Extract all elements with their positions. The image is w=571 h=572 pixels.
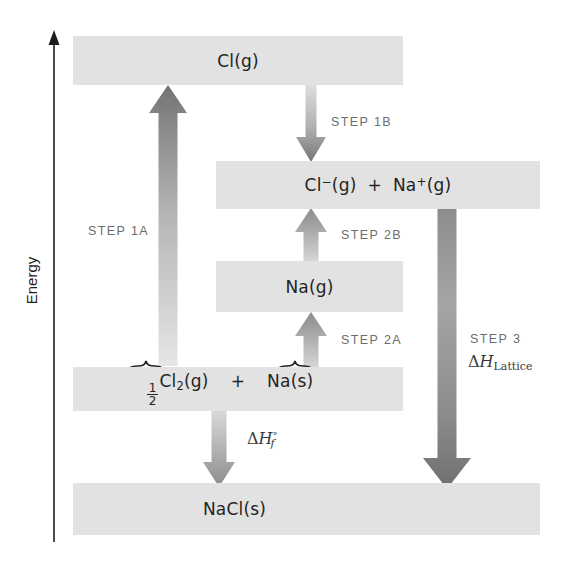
ion-cl-state: (g) — [332, 175, 357, 195]
ions-plus-sign: + — [368, 175, 382, 195]
level-bar-reactants: 1 2 Cl2(g)+Na(s) — [73, 367, 403, 411]
delta-symbol-formation: Δ — [247, 429, 259, 448]
step-2b-arrow — [295, 208, 327, 261]
born-haber-cycle-diagram: Energy Cl(g) Cl−(g)+Na+(g) Na(g) 1 2 Cl2… — [0, 0, 571, 572]
h-symbol-lattice: H — [480, 352, 494, 371]
level-bar-cl-g: Cl(g) — [73, 36, 403, 85]
energy-axis-label: Energy — [23, 246, 40, 316]
energy-axis — [49, 30, 60, 542]
ion-na-symbol: Na — [393, 175, 417, 195]
step-2a-arrow — [295, 312, 327, 367]
level-label-ions-g: Cl−(g)+Na+(g) — [305, 175, 452, 195]
chlorine-state: (g) — [184, 371, 209, 391]
ion-cl-charge: − — [322, 175, 332, 189]
chlorine-symbol: Cl — [159, 371, 176, 391]
level-label-reactants: 1 2 Cl2(g)+Na(s) — [147, 371, 314, 407]
step-3-label: STEP 3 — [470, 332, 521, 346]
level-bar-ions-g: Cl−(g)+Na+(g) — [216, 161, 540, 209]
level-label-cl-g: Cl(g) — [217, 51, 259, 71]
step-1b-arrow — [296, 85, 326, 162]
level-bar-nacl-s: NaCl(s) — [73, 483, 540, 535]
level-bar-na-g: Na(g) — [216, 261, 403, 312]
reactants-plus-sign: + — [231, 371, 245, 391]
enthalpy-formation-arrow — [203, 410, 235, 487]
step-2b-label: STEP 2B — [341, 228, 402, 242]
level-label-nacl-s: NaCl(s) — [203, 499, 266, 519]
ion-cl-symbol: Cl — [305, 175, 322, 195]
step-1a-arrow — [149, 85, 187, 366]
coefficient-one-half: 1 2 — [147, 382, 159, 407]
lattice-subscript: Lattice — [494, 360, 533, 373]
ion-na-charge: + — [417, 175, 427, 189]
step-2a-label: STEP 2A — [341, 333, 402, 347]
ion-na-state: (g) — [427, 175, 452, 195]
step-3-arrow — [423, 208, 471, 489]
chlorine-subscript: 2 — [176, 379, 184, 393]
step-1a-label: STEP 1A — [88, 224, 149, 238]
enthalpy-formation-label: ΔH°f — [247, 429, 275, 450]
enthalpy-lattice-label: ΔHLattice — [468, 352, 532, 373]
formation-subscript: f — [271, 437, 275, 450]
sodium-solid: Na(s) — [267, 371, 313, 391]
delta-symbol-lattice: Δ — [468, 352, 480, 371]
step-1b-label: STEP 1B — [331, 115, 392, 129]
level-label-na-g: Na(g) — [285, 277, 333, 297]
